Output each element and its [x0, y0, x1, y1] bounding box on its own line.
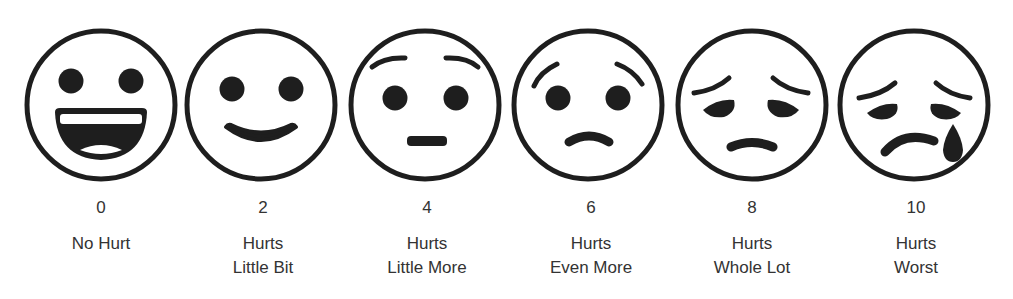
face-4-neutral-icon [351, 31, 499, 179]
faces-row [0, 0, 1013, 190]
pain-value: 2 [183, 198, 343, 218]
pain-value: 6 [511, 198, 671, 218]
pain-description-line1: Hurts [183, 234, 343, 254]
pain-description-line2: Whole Lot [672, 258, 832, 278]
pain-description-line1: No Hurt [21, 234, 181, 254]
pain-description-line2: Little More [347, 258, 507, 278]
pain-description-line1: Hurts [836, 234, 996, 254]
pain-value: 0 [21, 198, 181, 218]
pain-description-line2: Worst [836, 258, 996, 278]
pain-description-line2: Even More [511, 258, 671, 278]
pain-description-line1: Hurts [347, 234, 507, 254]
pain-value: 10 [836, 198, 996, 218]
pain-description-line1: Hurts [672, 234, 832, 254]
pain-description-line2: Little Bit [183, 258, 343, 278]
pain-value: 4 [347, 198, 507, 218]
face-8-sad-icon [678, 31, 826, 179]
pain-description-line1: Hurts [511, 234, 671, 254]
face-0-big-grin-icon [27, 31, 175, 179]
pain-value: 8 [672, 198, 832, 218]
face-10-crying-icon [840, 31, 988, 179]
face-6-frown-icon [514, 31, 662, 179]
face-2-smile-icon [187, 31, 335, 179]
